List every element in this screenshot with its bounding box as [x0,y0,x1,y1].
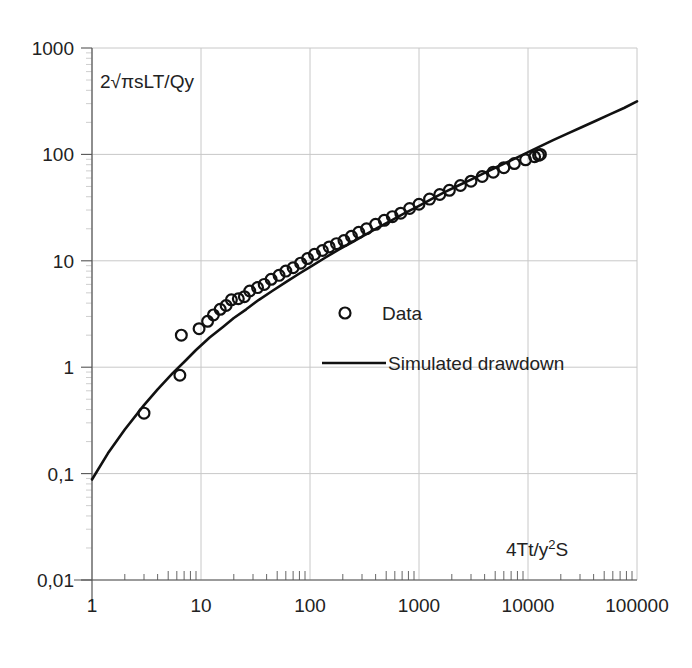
x-tick-label: 10000 [502,595,555,616]
y-axis-title: 2√πsLT/Qy [100,71,194,92]
x-tick-label: 1 [87,595,98,616]
data-point [174,370,185,381]
minor-ticks [86,53,632,580]
x-tick-label: 100 [294,595,326,616]
chart-container: 110100100010000100000 0,010,11101001000 … [0,0,692,668]
y-tick-label: 1 [63,357,74,378]
y-tick-label: 1000 [32,38,74,59]
y-tick-label: 10 [53,251,74,272]
data-point [176,330,187,341]
series-simulated-drawdown [92,101,637,479]
legend-label-data: Data [382,303,423,324]
axes [74,48,637,602]
y-tick-label: 100 [42,144,74,165]
x-tick-label: 10 [190,595,211,616]
x-tick-label: 1000 [398,595,440,616]
x-axis-title: 4Tt/y2S [506,537,568,560]
data-point [139,408,150,419]
x-tick-label: 100000 [605,595,668,616]
simulated-drawdown-curve [92,101,637,479]
grid-lines [92,48,637,580]
legend-marker-data [340,308,351,319]
y-tick-label: 0,01 [37,570,74,591]
loglog-scatter-chart: 110100100010000100000 0,010,11101001000 … [0,0,692,668]
series-data-points [139,149,546,419]
legend-label-simulated-drawdown: Simulated drawdown [388,353,564,374]
x-tick-labels: 110100100010000100000 [87,595,669,616]
y-tick-labels: 0,010,11101001000 [32,38,74,591]
y-tick-label: 0,1 [48,464,74,485]
